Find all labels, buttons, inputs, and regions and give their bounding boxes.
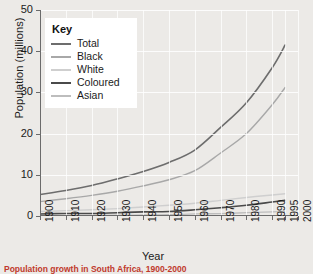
gridline-vertical (143, 10, 144, 216)
x-tick-label: 1970 (225, 200, 236, 222)
x-tick-label: 1950 (173, 200, 184, 222)
legend-box: Key TotalBlackWhiteColouredAsian (45, 18, 137, 108)
legend-label: Asian (77, 89, 103, 102)
legend-title: Key (52, 23, 131, 35)
x-tick (169, 216, 170, 220)
x-tick-label: 1920 (96, 200, 107, 222)
y-axis-title: Population (millions) (13, 0, 25, 143)
x-tick-label: 1900 (44, 200, 55, 222)
gridline-vertical (246, 10, 247, 216)
y-tick (36, 175, 40, 176)
legend-swatch-icon (51, 82, 71, 84)
gridline-vertical (298, 10, 299, 216)
legend-swatch-icon (51, 69, 71, 71)
legend-swatch-icon (51, 56, 71, 58)
legend-item-white: White (51, 63, 131, 76)
gridline-vertical (169, 10, 170, 216)
x-tick (117, 216, 118, 220)
legend-label: Coloured (77, 76, 120, 89)
gridline-vertical (285, 10, 286, 216)
legend-label: White (77, 63, 104, 76)
x-axis-title: Year (0, 250, 306, 262)
y-tick (36, 51, 40, 52)
x-tick (195, 216, 196, 220)
y-tick-label: 10 (3, 168, 33, 180)
x-tick-label: 1940 (147, 200, 158, 222)
x-tick-label: 1980 (250, 200, 261, 222)
legend-item-black: Black (51, 50, 131, 63)
x-tick (143, 216, 144, 220)
gridline-vertical (221, 10, 222, 216)
y-tick-label: 50 (3, 3, 33, 15)
y-tick-label: 30 (3, 85, 33, 97)
y-tick (36, 134, 40, 135)
x-tick-label: 1995 (289, 200, 300, 222)
legend-label: Total (77, 37, 99, 50)
x-tick-label: 2000 (302, 200, 313, 222)
x-tick-label: 1960 (199, 200, 210, 222)
y-tick-label: 20 (3, 127, 33, 139)
y-tick (36, 10, 40, 11)
legend-label: Black (77, 50, 103, 63)
x-tick (246, 216, 247, 220)
legend-entries: TotalBlackWhiteColouredAsian (51, 37, 131, 102)
legend-item-coloured: Coloured (51, 76, 131, 89)
legend-item-asian: Asian (51, 89, 131, 102)
x-tick (40, 216, 41, 220)
y-tick (36, 92, 40, 93)
x-tick-label: 1930 (121, 200, 132, 222)
y-tick-label: 40 (3, 44, 33, 56)
x-tick (92, 216, 93, 220)
gridline-vertical (272, 10, 273, 216)
gridline-vertical (195, 10, 196, 216)
y-tick-label: 0 (3, 209, 33, 221)
x-tick (221, 216, 222, 220)
legend-swatch-icon (51, 95, 71, 97)
x-tick-label: 1990 (276, 200, 287, 222)
figure-caption: Population growth in South Africa, 1900-… (4, 264, 306, 274)
legend-item-total: Total (51, 37, 131, 50)
x-tick (66, 216, 67, 220)
x-tick-label: 1910 (70, 200, 81, 222)
legend-swatch-icon (51, 43, 71, 45)
y-axis-line (40, 10, 41, 216)
x-tick (272, 216, 273, 220)
